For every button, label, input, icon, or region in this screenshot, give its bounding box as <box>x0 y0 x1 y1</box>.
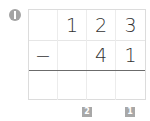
minus-sign: − <box>29 40 58 70</box>
cell-r0-c1: 1 <box>58 10 87 40</box>
answer-row <box>29 71 145 100</box>
marker-glyph <box>14 11 16 19</box>
cell-r0-c0 <box>29 10 58 40</box>
answer-cell-c3[interactable] <box>116 71 145 100</box>
subtraction-grid: 1 2 3 − 4 1 <box>28 9 146 100</box>
cell-r0-c2: 2 <box>87 10 116 40</box>
cell-r1-c2: 4 <box>87 40 116 70</box>
answer-cell-c1[interactable] <box>58 71 87 100</box>
subtrahend-row: − 4 1 <box>29 40 145 70</box>
cell-r1-c1 <box>58 40 87 70</box>
column-badge-1: 1 <box>125 107 135 117</box>
cell-r0-c3: 3 <box>116 10 145 40</box>
minuend-row: 1 2 3 <box>29 10 145 41</box>
answer-cell-c0[interactable] <box>29 71 58 100</box>
problem-number-marker-icon <box>9 9 21 21</box>
cell-r1-c3: 1 <box>116 40 145 70</box>
column-badge-2: 2 <box>82 107 92 117</box>
answer-cell-c2[interactable] <box>87 71 116 100</box>
